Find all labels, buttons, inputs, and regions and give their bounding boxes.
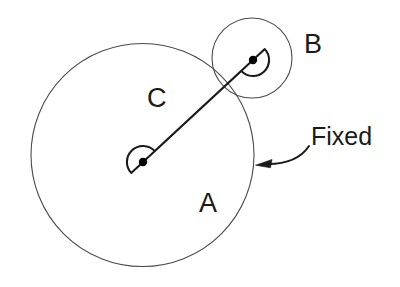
- label-body-b: B: [304, 31, 322, 58]
- fixed-leader-curve: [268, 146, 309, 164]
- fixed-arrowhead-icon: [256, 160, 273, 168]
- label-link-c: C: [147, 85, 167, 112]
- label-body-a: A: [199, 190, 217, 217]
- pivot-joint-upper-dot: [249, 56, 257, 64]
- label-fixed-annotation: Fixed: [311, 124, 372, 149]
- diagram-canvas: A B C Fixed: [0, 0, 400, 287]
- pivot-joint-lower-dot: [139, 158, 147, 166]
